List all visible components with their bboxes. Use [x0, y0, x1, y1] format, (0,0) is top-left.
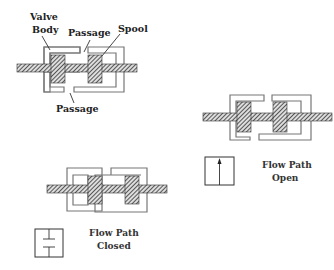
- open-caption-line2: Open: [272, 173, 299, 183]
- label-passage-top: Passage: [68, 27, 111, 38]
- arrow-up-icon: [205, 157, 234, 185]
- closed-valve: [47, 168, 167, 212]
- spool-land-right: [88, 55, 102, 83]
- spool-valve-diagram: Valve Body Passage Spool Passage Flow Pa…: [0, 0, 334, 270]
- open-valve: [203, 95, 332, 140]
- labeled-valve: Valve Body Passage Spool Passage: [17, 11, 148, 114]
- closed-spool-land-right: [125, 176, 139, 204]
- closed-spool-land-left: [88, 176, 102, 204]
- open-caption-line1: Flow Path: [262, 160, 312, 170]
- label-passage-bottom: Passage: [56, 103, 99, 114]
- label-body: Body: [32, 24, 59, 35]
- closed-caption-line1: Flow Path: [89, 228, 139, 238]
- spool-land-left: [51, 55, 65, 83]
- closed-caption-line2: Closed: [97, 241, 131, 251]
- open-spool-land-right: [273, 102, 287, 132]
- spool-rod: [17, 64, 137, 72]
- label-valve: Valve: [29, 11, 58, 22]
- open-spool-land-left: [237, 102, 251, 132]
- blocked-path-icon: [35, 229, 63, 257]
- label-spool: Spool: [118, 23, 148, 34]
